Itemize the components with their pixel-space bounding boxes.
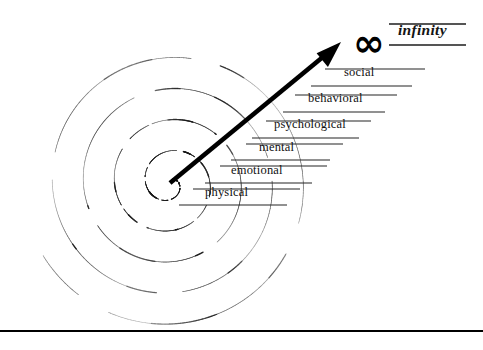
arrow-head [317,42,341,67]
infinity-icon: ∞ [353,24,385,62]
tier-label-behavioral: behavioral [308,92,363,105]
diagram-canvas: physical emotional mental psychological … [0,0,483,350]
tier-label-physical: physical [205,186,248,199]
infinity-label: infinity [398,21,447,39]
dotted-spiral [43,57,304,325]
tier-label-psychological: psychological [274,118,346,131]
tier-label-emotional: emotional [231,164,283,177]
tier-label-social: social [344,66,374,79]
tier-label-mental: mental [259,141,294,154]
